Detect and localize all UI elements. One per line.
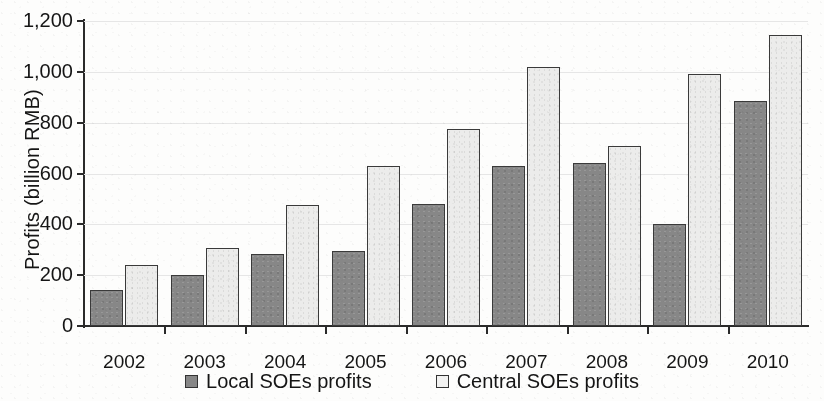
legend-swatch-central-icon — [436, 375, 449, 388]
bar-2010-central — [769, 35, 802, 326]
x-tick-mark — [647, 326, 649, 334]
y-tick-label: 600 — [40, 161, 73, 184]
chart-legend: Local SOEs profits Central SOEs profits — [0, 370, 824, 393]
bar-2004-central — [286, 205, 319, 326]
bar-2002-local — [90, 290, 123, 326]
bar-2010-local — [734, 101, 767, 326]
x-tick-mark — [486, 326, 488, 334]
bar-2004-local — [251, 254, 284, 326]
legend-label-central: Central SOEs profits — [457, 370, 639, 393]
gridline — [84, 21, 808, 22]
bar-2003-local — [171, 275, 204, 326]
y-tick-mark — [77, 71, 84, 73]
legend-item-local: Local SOEs profits — [185, 370, 372, 393]
bar-2008-central — [608, 146, 641, 326]
bar-chart-figure: Profits (billion RMB) 02004006008001,000… — [0, 0, 824, 401]
bar-2006-central — [447, 129, 480, 326]
bar-2009-central — [688, 74, 721, 326]
y-tick-label: 800 — [40, 110, 73, 133]
x-tick-mark — [406, 326, 408, 334]
bar-2002-central — [125, 265, 158, 326]
x-tick-mark — [728, 326, 730, 334]
y-tick-label: 200 — [40, 263, 73, 286]
bar-2009-local — [653, 224, 686, 326]
legend-item-central: Central SOEs profits — [436, 370, 639, 393]
bar-2005-central — [367, 166, 400, 326]
x-tick-mark — [325, 326, 327, 334]
bar-2006-local — [412, 204, 445, 326]
bar-2007-central — [527, 67, 560, 326]
y-tick-label: 0 — [62, 314, 73, 337]
y-tick-mark — [77, 223, 84, 225]
legend-label-local: Local SOEs profits — [206, 370, 372, 393]
y-tick-label: 1,000 — [23, 60, 73, 83]
bar-2008-local — [573, 163, 606, 326]
y-tick-label: 1,200 — [23, 9, 73, 32]
bar-2005-local — [332, 251, 365, 326]
y-tick-mark — [77, 274, 84, 276]
x-tick-mark — [245, 326, 247, 334]
y-tick-label: 400 — [40, 212, 73, 235]
bar-2007-local — [492, 166, 525, 326]
legend-swatch-local-icon — [185, 375, 198, 388]
y-tick-mark — [77, 122, 84, 124]
x-tick-mark — [567, 326, 569, 334]
x-tick-mark — [164, 326, 166, 334]
gridline — [84, 72, 808, 73]
y-tick-mark — [77, 20, 84, 22]
plot-area: 02004006008001,0001,20020022003200420052… — [84, 21, 808, 326]
y-tick-mark — [77, 325, 84, 327]
y-tick-mark — [77, 173, 84, 175]
bar-2003-central — [206, 248, 239, 326]
